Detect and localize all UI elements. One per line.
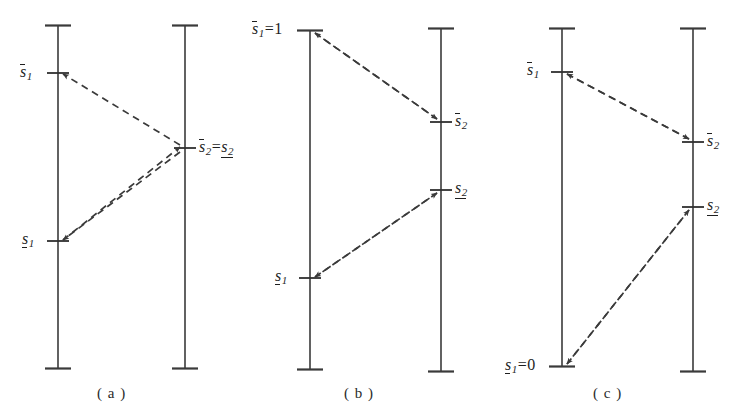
panel-b-label-s1-lower: s1 (275, 268, 287, 286)
subscript-1: 1 (26, 70, 32, 82)
panel-c-link-upper-to-left (567, 74, 689, 139)
subscript-1: 1 (281, 274, 287, 286)
subscript-1: 1 (533, 68, 539, 80)
s-overbar-glyph: s (199, 138, 205, 155)
interval-diagram-svg (0, 0, 743, 420)
panel-a-link-upper (63, 74, 180, 145)
panel-c-label-s2-lower: s2 (707, 197, 719, 215)
panel-caption-c: ( c ) (593, 385, 622, 402)
s-overbar-glyph: s (20, 63, 26, 80)
panel-b-group (297, 28, 454, 372)
subscript-2: 2 (713, 203, 719, 215)
panel-b-label-s2-lower: s2 (455, 180, 467, 198)
s-overbar-glyph: s (707, 132, 713, 149)
equals-sign: = (517, 356, 527, 373)
subscript-2: 2 (228, 145, 234, 157)
figure-root: s1 s1 s2=s2 s1=1 s1 s2 s2 s1 s1=0 s2 s2 … (0, 0, 743, 420)
s-overbar-glyph: s (527, 61, 533, 78)
value-zero: 0 (527, 356, 535, 373)
panel-a-label-s2-equality: s2=s2 (199, 138, 234, 157)
s-overbar-glyph: s (252, 20, 258, 37)
panel-a-label-s1-upper: s1 (20, 63, 32, 82)
s-overbar-glyph: s (455, 112, 461, 129)
panel-a-group (45, 25, 198, 369)
panel-b-label-s1-upper: s1=1 (252, 20, 282, 39)
panel-c-label-s1-upper: s1 (527, 61, 539, 80)
panel-caption-a: ( a ) (97, 385, 126, 402)
panel-c-link-upper-to-right (567, 74, 689, 139)
equals-sign: = (211, 138, 221, 155)
value-one: 1 (274, 20, 282, 37)
panel-c-label-s1-lower: s1=0 (505, 357, 535, 375)
subscript-2: 2 (461, 119, 467, 131)
s-underbar-glyph: s (22, 231, 28, 247)
s-underbar-glyph: s2 (221, 139, 233, 157)
equals-sign: = (264, 20, 274, 37)
s-underbar-glyph: s (275, 268, 281, 284)
panel-a-label-s1-lower: s1 (22, 231, 34, 249)
subscript-1: 1 (28, 237, 34, 249)
panel-b-label-s2-upper: s2 (455, 112, 467, 131)
panel-c-group (549, 28, 706, 372)
panel-caption-b: ( b ) (344, 385, 374, 402)
subscript-2: 2 (461, 186, 467, 198)
panel-c-label-s2-upper: s2 (707, 132, 719, 151)
s-underbar-glyph: s (505, 357, 511, 373)
subscript-2: 2 (713, 139, 719, 151)
s-underbar-glyph: s2 (455, 180, 467, 198)
panel-a-link-lower (63, 152, 180, 240)
s-underbar-glyph: s2 (707, 197, 719, 215)
